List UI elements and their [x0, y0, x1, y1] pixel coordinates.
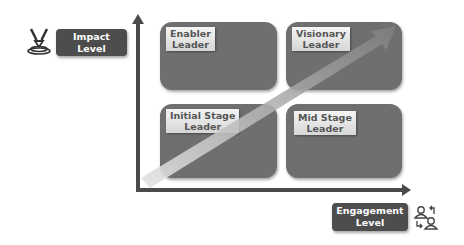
- impact-level-line1: Impact: [56, 31, 127, 43]
- people-exchange-icon: [413, 205, 439, 231]
- engagement-level-line1: Engagement: [332, 205, 408, 217]
- engagement-level-line2: Level: [332, 217, 408, 229]
- impact-level-line2: Level: [56, 43, 127, 55]
- engagement-level-label: Engagement Level: [332, 203, 408, 231]
- impact-target-icon: [26, 27, 52, 55]
- impact-level-label: Impact Level: [56, 29, 127, 56]
